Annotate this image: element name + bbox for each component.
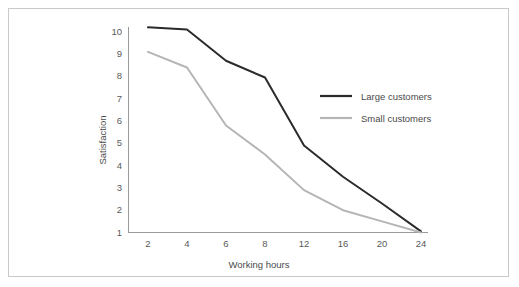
legend-label-small-customers: Small customers [361, 113, 431, 124]
y-axis-tick-labels: 1 2 3 4 5 6 7 8 9 10 [111, 26, 122, 238]
x-axis-tick-labels: 2 4 6 8 12 16 20 24 [145, 238, 426, 249]
y-tick-label: 10 [111, 26, 122, 37]
legend-label-large-customers: Large customers [361, 91, 432, 102]
chart-figure: 1 2 3 4 5 6 7 8 9 10 2 4 6 8 12 16 20 24… [0, 0, 519, 287]
x-tick-label: 2 [145, 238, 150, 249]
y-tick-label: 6 [117, 115, 122, 126]
y-tick-label: 8 [117, 70, 122, 81]
x-tick-label: 24 [416, 238, 427, 249]
series-line-large-customers [148, 27, 421, 231]
y-tick-label: 1 [117, 227, 122, 238]
x-tick-label: 20 [377, 238, 388, 249]
line-chart: 1 2 3 4 5 6 7 8 9 10 2 4 6 8 12 16 20 24… [0, 0, 519, 287]
chart-legend: Large customers Small customers [320, 91, 432, 124]
y-tick-label: 7 [117, 93, 122, 104]
y-tick-label: 2 [117, 204, 122, 215]
y-tick-label: 9 [117, 48, 122, 59]
x-tick-label: 4 [184, 238, 189, 249]
y-tick-label: 3 [117, 182, 122, 193]
y-tick-label: 5 [117, 137, 122, 148]
x-tick-label: 8 [262, 238, 267, 249]
y-tick-label: 4 [117, 160, 122, 171]
x-tick-label: 12 [299, 238, 310, 249]
y-axis-title: Satisfaction [97, 115, 108, 164]
series-line-small-customers [148, 52, 421, 233]
x-tick-label: 6 [223, 238, 228, 249]
x-axis-title: Working hours [228, 259, 289, 270]
x-tick-label: 16 [338, 238, 349, 249]
